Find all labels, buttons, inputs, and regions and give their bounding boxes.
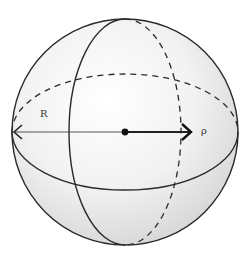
- center-point: [122, 129, 129, 136]
- label-rho: ρ: [201, 125, 207, 136]
- label-radius-r: R: [40, 108, 48, 119]
- sphere-diagram: R ρ: [0, 0, 249, 260]
